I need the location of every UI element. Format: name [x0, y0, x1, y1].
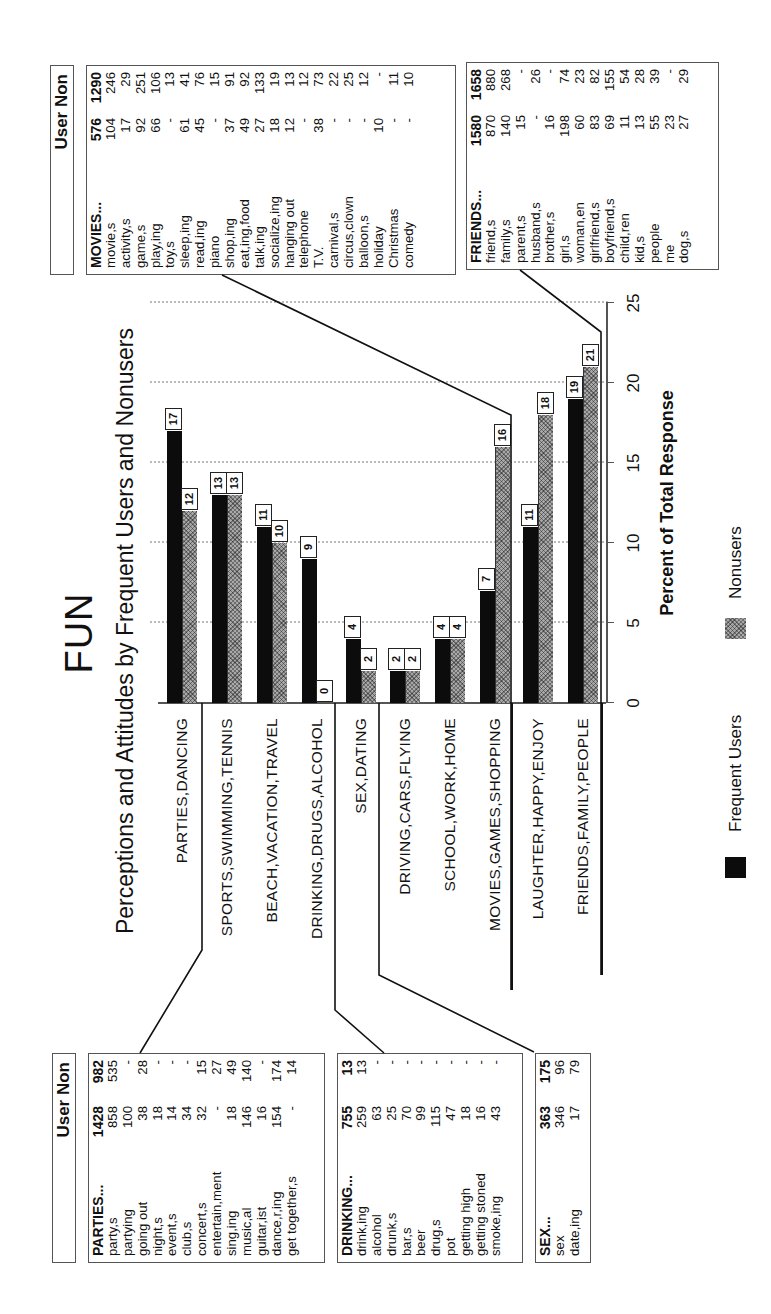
bar-chart: 0510152025PARTIES,DANCING1712SPORTS,SWIM…	[0, 0, 771, 1314]
x-axis-tick	[606, 382, 614, 383]
bar-frequent-users	[212, 495, 227, 703]
x-axis-tick	[606, 622, 614, 623]
x-axis-title: Percent of Total Response	[657, 303, 678, 703]
category-label: BEACH,VACATION,TRAVEL	[263, 718, 281, 1014]
category-label: SCHOOL,WORK,HOME	[441, 718, 459, 1014]
value-label-frequent: 7	[478, 568, 495, 590]
legend-nonusers-label: Nonusers	[726, 526, 746, 599]
bar-nonusers	[405, 671, 420, 703]
value-label-frequent: 9	[300, 536, 317, 558]
bar-nonusers	[538, 415, 553, 703]
value-label-frequent: 11	[521, 504, 538, 526]
category-label: SPORTS,SWIMMING,TENNIS	[218, 718, 236, 1014]
legend-nonusers-swatch	[725, 618, 746, 639]
category-underline	[601, 703, 603, 975]
x-axis-tick-label: 15	[624, 443, 644, 483]
category-label: LAUGHTER,HAPPY,ENJOY	[529, 718, 547, 1014]
x-axis-tick	[606, 462, 614, 463]
category-underline	[511, 703, 513, 990]
bar-frequent-users	[480, 591, 495, 703]
value-label-nonusers: 16	[494, 424, 511, 446]
category-label: DRIVING,CARS,FLYING	[396, 718, 414, 1014]
value-label-frequent: 4	[433, 616, 450, 638]
value-label-nonusers: 21	[582, 344, 599, 366]
bar-nonusers	[450, 639, 465, 703]
bar-frequent-users	[346, 639, 361, 703]
legend-frequent-swatch	[725, 857, 746, 878]
bar-frequent-users	[435, 639, 450, 703]
bar-frequent-users	[302, 559, 317, 703]
category-label: MOVIES,GAMES,SHOPPING	[486, 718, 504, 1014]
bar-nonusers	[182, 511, 197, 703]
value-label-nonusers: 12	[181, 488, 198, 510]
x-axis-tick-label: 10	[624, 523, 644, 563]
bar-nonusers	[495, 447, 510, 703]
x-axis-tick-label: 20	[624, 363, 644, 403]
value-label-nonusers: 18	[537, 392, 554, 414]
bar-frequent-users	[257, 527, 272, 703]
bar-nonusers	[227, 495, 242, 703]
x-axis-tick	[606, 702, 614, 703]
bar-frequent-users	[568, 399, 583, 703]
value-label-frequent: 19	[566, 376, 583, 398]
value-label-frequent: 4	[344, 616, 361, 638]
category-label: PARTIES,DANCING	[173, 718, 191, 1014]
bar-frequent-users	[523, 527, 538, 703]
gridline	[150, 381, 608, 383]
x-axis-tick	[606, 542, 614, 543]
value-label-nonusers: 10	[271, 520, 288, 542]
bar-nonusers	[361, 671, 376, 703]
bar-frequent-users	[390, 671, 405, 703]
category-label: SEX,DATING	[352, 718, 370, 1014]
value-label-frequent: 13	[210, 472, 227, 494]
value-label-nonusers: 13	[226, 472, 243, 494]
bar-nonusers	[583, 367, 598, 703]
value-label-nonusers: 4	[449, 616, 466, 638]
gridline	[150, 301, 608, 303]
x-axis-line	[606, 303, 608, 703]
legend-frequent-label: Frequent Users	[726, 715, 746, 832]
rotated-chart-page: FUN Perceptions and Attitudes by Frequen…	[0, 0, 771, 1314]
x-axis-tick-label: 25	[624, 283, 644, 323]
value-label-frequent: 11	[255, 504, 272, 526]
bar-nonusers	[272, 543, 287, 703]
bar-frequent-users	[167, 431, 182, 703]
category-label: FRIENDS,FAMILY,PEOPLE	[574, 718, 592, 1014]
value-label-frequent: 2	[388, 648, 405, 670]
x-axis-tick-label: 0	[624, 683, 644, 723]
category-label: DRINKING,DRUGS,ALCOHOL	[308, 718, 326, 1014]
value-label-nonusers: 2	[360, 648, 377, 670]
value-label-nonusers: 2	[404, 648, 421, 670]
value-label-nonusers: 0	[316, 680, 333, 702]
value-label-frequent: 17	[165, 408, 182, 430]
x-axis-tick	[606, 302, 614, 303]
x-axis-tick-label: 5	[624, 603, 644, 643]
